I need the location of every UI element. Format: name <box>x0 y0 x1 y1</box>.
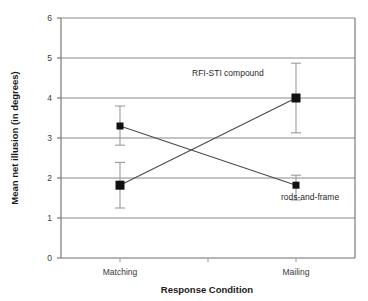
x-category-label-matching: Matching <box>103 267 138 277</box>
annotation-rods-and-frame: rods-and-frame <box>281 192 339 202</box>
y-tick-label-5: 5 <box>47 53 52 63</box>
y-axis-title: Mean net illusion (in degrees) <box>9 71 20 205</box>
y-tick-label-0: 0 <box>47 253 52 263</box>
data-point-rfi-sti-matching <box>116 181 125 190</box>
annotation-rfi-sti-compound: RFI-STI compound <box>192 68 264 78</box>
y-tick-label-6: 6 <box>47 13 52 23</box>
y-tick-label-1: 1 <box>47 213 52 223</box>
chart-background <box>0 0 368 301</box>
data-point-rods-mailing <box>293 182 300 189</box>
y-tick-label-3: 3 <box>47 133 52 143</box>
y-tick-label-4: 4 <box>47 93 52 103</box>
x-axis-title: Response Condition <box>161 284 254 295</box>
data-point-rfi-sti-mailing <box>292 94 301 103</box>
y-tick-label-2: 2 <box>47 173 52 183</box>
data-point-rods-matching <box>117 123 124 130</box>
chart-container: 6 5 4 3 2 1 0 Matching Mailing Response … <box>0 0 368 301</box>
x-category-label-mailing: Mailing <box>283 267 310 277</box>
line-chart-svg: 6 5 4 3 2 1 0 Matching Mailing Response … <box>0 0 368 301</box>
